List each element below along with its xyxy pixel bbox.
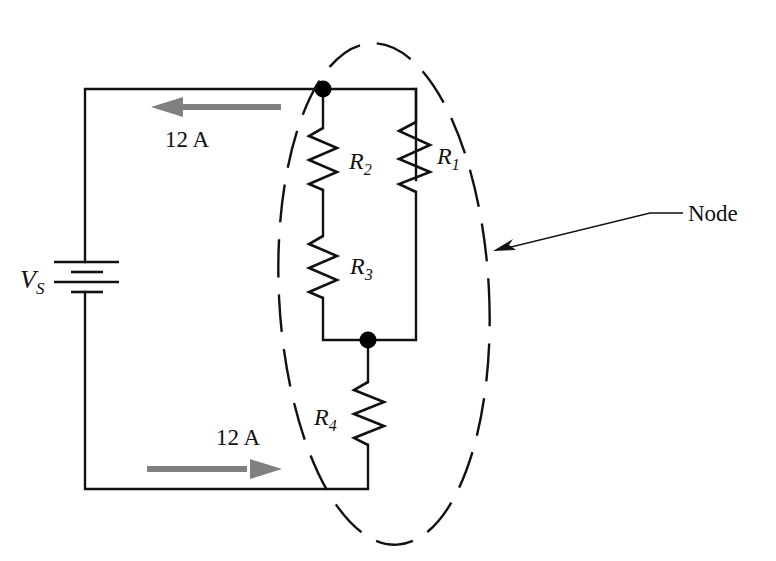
circuit-diagram: VS R2 R1 R3 R4 12 A 12 A Node xyxy=(0,0,776,561)
resistor-r4-label: R4 xyxy=(313,404,337,434)
junction-dot-bottom xyxy=(360,332,377,349)
bottom-wire xyxy=(85,292,368,489)
current-arrow-top-icon xyxy=(151,97,281,117)
node-callout-label: Node xyxy=(688,201,738,226)
resistor-r1-label: R1 xyxy=(436,143,460,173)
resistor-r1-icon xyxy=(399,122,430,192)
current-label-bottom: 12 A xyxy=(216,425,260,450)
current-arrow-bottom-icon xyxy=(147,459,282,479)
resistor-r2-label: R2 xyxy=(348,148,372,178)
source-label: VS xyxy=(20,265,45,298)
current-label-top: 12 A xyxy=(165,127,209,152)
resistor-r2-icon xyxy=(309,128,337,190)
resistor-r4-icon xyxy=(354,382,384,445)
battery-icon xyxy=(54,262,119,292)
resistor-r3-label: R3 xyxy=(349,253,373,283)
node-boundary-ellipse xyxy=(266,38,502,550)
resistor-r3-icon xyxy=(309,236,337,298)
node-callout-arrow-icon xyxy=(493,213,683,251)
